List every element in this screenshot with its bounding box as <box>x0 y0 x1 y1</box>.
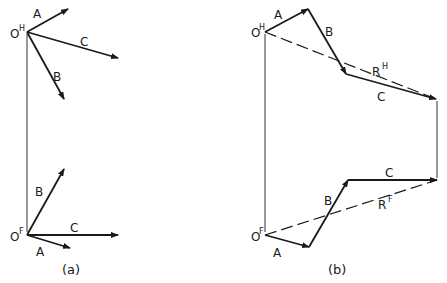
label-a-front: A <box>36 245 45 259</box>
label-rh: R <box>372 65 380 79</box>
vector-a-front <box>27 235 70 248</box>
label-c-top: C <box>80 35 88 49</box>
origin-f-sup-a: F <box>19 227 24 236</box>
label-b-front-b: B <box>324 194 332 208</box>
panel-b: O H A B C R H O F A B C R F (b) <box>251 8 437 277</box>
label-b-front: B <box>35 185 43 199</box>
label-rh-sup: H <box>382 62 388 71</box>
vector-addition-diagram: O H A B C O F A B C (a) O H A B C R H <box>0 0 447 283</box>
origin-h-sup-a: H <box>19 24 25 33</box>
origin-h-sup-b: H <box>259 23 265 32</box>
label-rf-sup: F <box>388 195 393 204</box>
vector-c-top <box>27 32 118 58</box>
label-rf: R <box>378 198 386 212</box>
label-a-top: A <box>33 7 42 21</box>
vector-b-top-b <box>308 9 346 74</box>
caption-b: (b) <box>328 262 346 277</box>
vector-a-top-b <box>265 9 308 32</box>
label-c-front: C <box>70 221 78 235</box>
label-b-top: B <box>53 70 61 84</box>
diagram-svg: O H A B C O F A B C (a) O H A B C R H <box>0 0 447 283</box>
vector-c-top-b <box>346 74 436 99</box>
label-a-front-b: A <box>273 246 282 260</box>
label-c-front-b: C <box>385 166 393 180</box>
vector-a-front-b <box>265 235 309 247</box>
resultant-rf <box>265 180 437 235</box>
label-c-top-b: C <box>377 90 385 104</box>
panel-a: O H A B C O F A B C (a) <box>10 7 118 277</box>
caption-a: (a) <box>62 262 80 277</box>
label-b-top-b: B <box>325 25 333 39</box>
vector-b-top <box>27 32 64 99</box>
origin-f-sup-b: F <box>259 227 264 236</box>
label-a-top-b: A <box>274 8 283 22</box>
vector-b-front-b <box>309 180 348 247</box>
vector-b-front <box>27 169 64 235</box>
resultant-rh <box>265 32 436 99</box>
